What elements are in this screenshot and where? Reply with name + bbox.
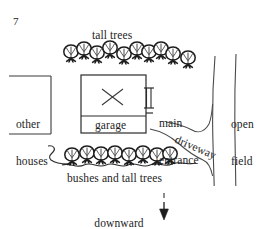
label-other-houses-line1: other — [16, 118, 48, 130]
label-bushes-and-tall-trees: bushes and tall trees — [67, 172, 162, 184]
label-other-houses: other houses — [16, 93, 48, 192]
tree-row-top — [64, 41, 195, 68]
label-main-entrance-line1: main — [159, 117, 199, 129]
label-garage: garage — [95, 119, 126, 131]
label-open-field-line2: field — [231, 155, 254, 167]
site-plan-figure: 7 tall trees other houses garage main en… — [0, 0, 271, 229]
label-open-field: open field — [231, 93, 254, 192]
page-number: 7 — [13, 16, 19, 28]
label-main-entrance-line2: entrance — [159, 154, 199, 166]
label-tall-trees: tall trees — [92, 29, 132, 41]
label-downward-slope-line1: downward — [86, 217, 152, 229]
label-downward-slope: downward slope — [86, 192, 152, 229]
label-other-houses-line2: houses — [16, 155, 48, 167]
downward-slope-arrow — [160, 193, 169, 220]
label-open-field-line1: open — [231, 118, 254, 130]
